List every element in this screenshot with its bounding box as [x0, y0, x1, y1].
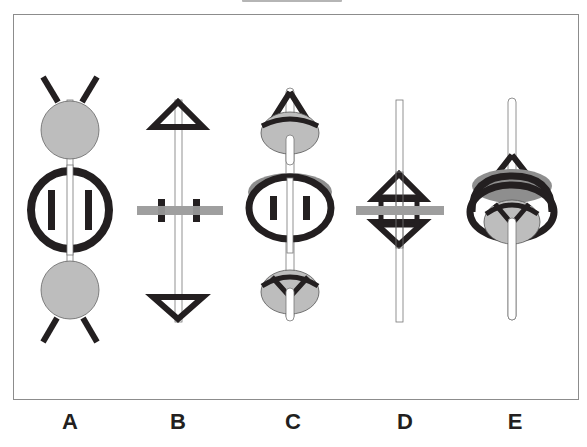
- figure-canvas: [0, 0, 587, 447]
- bottom-sphere: [41, 261, 99, 319]
- figure-b: [137, 100, 223, 322]
- top-sphere: [41, 101, 99, 159]
- option-label-b[interactable]: B: [170, 409, 186, 435]
- figure-a: [31, 77, 109, 342]
- figure-d: [356, 100, 444, 322]
- option-label-c[interactable]: C: [285, 409, 301, 435]
- option-label-a[interactable]: A: [62, 409, 78, 435]
- option-labels: A B C D E: [0, 405, 587, 445]
- figure-e: [470, 98, 554, 320]
- option-label-e[interactable]: E: [508, 409, 523, 435]
- figure-c: [248, 88, 332, 321]
- option-label-d[interactable]: D: [397, 409, 413, 435]
